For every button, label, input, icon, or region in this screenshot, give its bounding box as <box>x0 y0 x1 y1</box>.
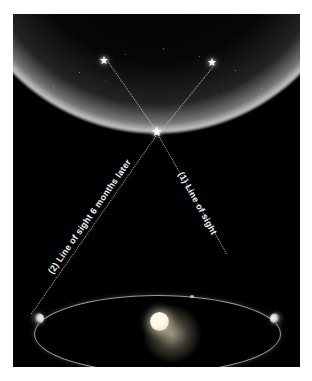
sight-line-2 <box>31 133 158 314</box>
background-speck <box>261 88 262 89</box>
background-speck <box>199 56 200 57</box>
sun-glow <box>142 304 202 364</box>
background-speck <box>125 54 126 55</box>
background-speck <box>53 86 54 87</box>
celestial-dome-shading <box>13 14 300 134</box>
earth-position-1 <box>270 313 281 324</box>
background-speck <box>217 94 218 95</box>
earth-position-2 <box>33 313 44 324</box>
sun <box>150 312 169 331</box>
parallax-figure: ★ ★ ★ (2) Line of sight 6 months later (… <box>0 0 312 381</box>
background-star-right-icon: ★ <box>207 57 217 68</box>
background-star-left-icon: ★ <box>99 55 109 66</box>
background-speck <box>163 48 164 49</box>
sight-line-2-label: (2) Line of sight 6 months later <box>46 157 133 275</box>
nearby-star-icon: ★ <box>151 125 163 138</box>
sight-line-1-label: (1) Line of sight <box>176 170 219 236</box>
orbit-marker <box>190 295 194 298</box>
background-speck <box>79 72 80 73</box>
background-speck <box>105 80 106 81</box>
sky-panel: ★ ★ ★ (2) Line of sight 6 months later (… <box>13 14 300 367</box>
background-speck <box>235 70 236 71</box>
